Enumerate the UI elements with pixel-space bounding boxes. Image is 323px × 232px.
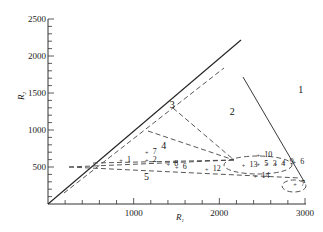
plus-marker-icon: +	[166, 161, 170, 167]
plus-marker-icon: +	[254, 173, 258, 179]
data-point-13: +13	[242, 160, 258, 169]
x-tick-labels: 100020003000	[125, 208, 315, 218]
point-label: 2	[153, 155, 157, 164]
point-label: 10	[264, 150, 272, 159]
point-label: 7	[301, 179, 305, 188]
data-point-6: +6	[292, 157, 304, 166]
point-label: 14	[262, 171, 270, 180]
data-point-14: +14	[254, 171, 270, 180]
y-axis-title: R2	[16, 92, 27, 102]
y-tick-label: 2000	[28, 51, 47, 61]
x-axis-title: R1	[175, 212, 184, 223]
dashed-boundaries	[64, 68, 306, 193]
region-label-4: 4	[161, 140, 166, 151]
data-point-12: +12	[205, 164, 221, 173]
y-tick-label: 1500	[28, 88, 47, 98]
plus-marker-icon: +	[282, 159, 286, 165]
data-point-6: +6	[175, 162, 187, 171]
plus-marker-icon: +	[293, 181, 297, 187]
dashed-region4-upper	[93, 160, 234, 163]
y-ticks	[48, 19, 54, 197]
plus-marker-icon: +	[256, 152, 260, 158]
plus-marker-icon: +	[292, 159, 296, 165]
plus-marker-icon: +	[242, 162, 246, 168]
point-label: 1	[127, 155, 131, 164]
region-label-3: 3	[170, 99, 175, 110]
data-point-10: +10	[256, 150, 272, 159]
point-label: 12	[213, 164, 221, 173]
y-tick-label: 1000	[28, 125, 47, 135]
region-labels: 12345	[144, 84, 303, 182]
plus-marker-icon: +	[119, 157, 123, 163]
data-point-7: +7	[145, 147, 157, 156]
x-ticks	[65, 198, 305, 204]
plus-marker-icon: +	[205, 166, 209, 172]
region-label-1: 1	[298, 84, 303, 95]
region-label-5: 5	[144, 171, 149, 182]
plus-marker-icon: +	[256, 161, 260, 167]
dashed-region3-upper	[173, 108, 234, 160]
plus-marker-icon: +	[175, 164, 179, 170]
data-point-2: +2	[145, 155, 157, 164]
dashed-region4-lower	[69, 160, 234, 167]
x-tick-label: 3000	[296, 208, 315, 218]
y-tick-label: 2500	[28, 14, 47, 24]
plus-marker-icon: +	[265, 161, 269, 167]
y-tick-label: 500	[33, 162, 47, 172]
x-tick-label: 1000	[125, 208, 144, 218]
point-label: 6	[183, 162, 187, 171]
diagram-canvas: 5001000150020002500 100020003000 R1 R2 1…	[0, 0, 323, 232]
point-label: 6	[300, 157, 304, 166]
y-tick-labels: 5001000150020002500	[28, 14, 47, 172]
point-label: 7	[153, 147, 157, 156]
plus-marker-icon: +	[274, 161, 278, 167]
plus-marker-icon: +	[145, 157, 149, 163]
region-label-2: 2	[230, 106, 235, 117]
plus-marker-icon: +	[145, 149, 149, 155]
x-tick-label: 2000	[210, 208, 229, 218]
